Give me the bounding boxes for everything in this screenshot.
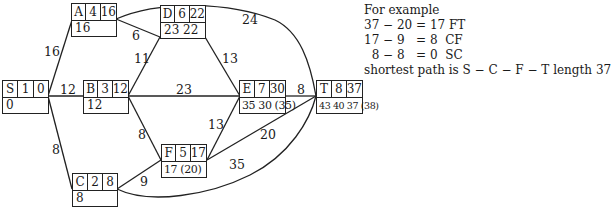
notes-line: shortest path is S − C − F − T length 37 <box>364 63 611 78</box>
edge-label-A-T: 24 <box>242 13 258 27</box>
edge-label-S-C: 8 <box>52 143 60 157</box>
edge-label-B-F: 8 <box>138 128 146 142</box>
node-times: 8 <box>73 191 117 206</box>
edge-label-B-D: 11 <box>134 52 150 66</box>
notes-line: 37 − 20 = 17 FT <box>364 18 611 33</box>
node-duration: 8 <box>332 81 347 97</box>
node-C: C28 8 <box>72 173 118 207</box>
node-value: 0 <box>34 81 48 97</box>
node-duration: 1 <box>18 81 33 97</box>
edge-label-S-B: 12 <box>60 83 76 97</box>
notes-line: 17 − 9 = 8 CF <box>364 33 611 48</box>
node-duration: 6 <box>175 6 189 22</box>
node-times: 0 <box>3 98 48 113</box>
node-name: B <box>84 81 98 97</box>
node-name: T <box>317 81 332 97</box>
edge-label-C-T: 35 <box>229 158 245 172</box>
edge-label-E-T: 8 <box>297 83 305 97</box>
edge-label-D-E: 13 <box>222 52 238 66</box>
edge-label-F-E: 13 <box>208 118 224 132</box>
node-times: 35 30 (35) <box>240 98 285 113</box>
node-value: 8 <box>103 174 117 190</box>
node-E: E730 35 30 (35) <box>239 80 286 114</box>
node-value: 37 <box>347 81 362 97</box>
node-value: 22 <box>190 6 205 22</box>
edge-C-F <box>117 160 161 189</box>
node-D: D622 23 22 <box>160 5 206 39</box>
node-S: S10 0 <box>2 80 49 114</box>
node-times: 17 (20) <box>162 162 206 177</box>
edge-B-D <box>128 37 160 96</box>
node-name: D <box>161 6 175 22</box>
node-duration: 3 <box>98 81 112 97</box>
node-name: A <box>72 4 86 20</box>
edge-label-A-D: 6 <box>132 29 140 43</box>
node-duration: 4 <box>86 4 100 20</box>
node-F: F517 17 (20) <box>161 144 207 178</box>
edge-label-B-E: 23 <box>176 83 192 97</box>
node-value: 12 <box>113 81 128 97</box>
node-B: B312 12 <box>83 80 129 114</box>
node-name: E <box>240 81 255 97</box>
notes-block: For example 37 − 20 = 17 FT 17 − 9 = 8 C… <box>364 3 611 78</box>
node-A: A416 16 <box>71 3 117 37</box>
node-value: 16 <box>101 4 116 20</box>
edge-label-C-F: 9 <box>140 175 148 189</box>
notes-line: 8 − 8 = 0 SC <box>364 48 611 63</box>
node-value: 17 <box>191 145 206 161</box>
node-name: F <box>162 145 176 161</box>
node-duration: 7 <box>255 81 270 97</box>
node-times: 23 22 <box>161 23 205 38</box>
notes-line: For example <box>364 3 611 18</box>
node-name: S <box>3 81 18 97</box>
node-times: 12 <box>84 98 128 113</box>
node-duration: 2 <box>88 174 103 190</box>
node-name: C <box>73 174 88 190</box>
edge-label-F-T: 20 <box>260 128 276 142</box>
node-T: T837 43 40 37 (38) <box>316 80 363 114</box>
edge-label-S-A: 16 <box>44 45 60 59</box>
node-times: 16 <box>72 21 116 36</box>
node-times: 43 40 37 (38) <box>317 98 362 113</box>
node-duration: 5 <box>176 145 190 161</box>
edge-D-E <box>205 37 240 96</box>
node-value: 30 <box>270 81 285 97</box>
